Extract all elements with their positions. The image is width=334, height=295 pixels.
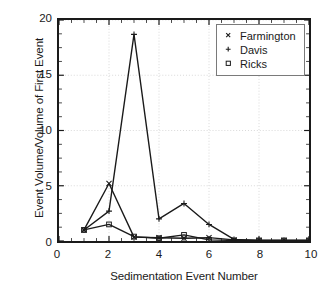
y-tick-label: 15 [26,69,52,80]
x-tick-label: 4 [147,249,171,260]
square-marker-icon [222,57,238,71]
legend-entry-farmington: Farmington [222,29,300,43]
plus-marker-icon [222,43,238,57]
x-tick-label: 10 [299,249,323,260]
legend-entry-ricks: Ricks [222,57,300,71]
legend-label: Ricks [238,58,267,71]
chart-legend: Farmington Davis Ricks [216,24,305,76]
legend-entry-davis: Davis [222,43,300,57]
x-tick-label: 0 [45,249,69,260]
y-tick-label: 20 [26,13,52,24]
legend-label: Davis [238,44,268,57]
series-farmington [81,181,309,241]
x-marker-icon [222,29,238,43]
y-tick-label: 5 [26,181,52,192]
y-tick-label: 10 [26,125,52,136]
x-tick-label: 2 [96,249,120,260]
x-tick-label: 6 [197,249,221,260]
legend-label: Farmington [238,30,296,43]
chart-figure: Event Volume/Volume of First Event 20 15… [0,0,334,295]
x-axis-title: Sedimentation Event Number [57,270,311,282]
x-axis-tick-labels: 0 2 4 6 8 10 [0,249,334,265]
y-tick-label: 0 [26,237,52,248]
x-tick-label: 8 [248,249,272,260]
